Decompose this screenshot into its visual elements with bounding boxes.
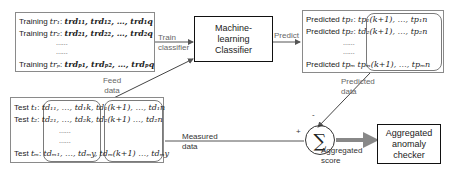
test-data-box: Test t₁: td₁₁, …, td₁k, td₁(k+1), …, td₁… <box>10 97 164 163</box>
predicted-row-1: Predicted tp₁: tp₁(k+1), …, tp₁n <box>306 15 427 25</box>
test-row-1: Test t₁: td₁₁, …, td₁k, td₁(k+1), …, td₁… <box>14 103 165 113</box>
predicted-data-box: Predicted tp₁: tp₁(k+1), …, tp₁n Predict… <box>302 10 444 73</box>
ellipsis: ...... <box>56 39 68 46</box>
anomaly-checker-box: Aggregated anomaly checker <box>377 124 441 164</box>
ellipsis: ...... <box>56 48 68 55</box>
plus-sign: + <box>296 127 301 137</box>
ellipsis: ...... <box>59 127 71 134</box>
predicted-row-2: Predicted tp₂: td₂(k+1), …, tp₂n <box>306 27 427 37</box>
predicted-data-label: Predicted data <box>341 77 377 97</box>
aggregated-score-label: Aggregated score <box>321 146 365 166</box>
measured-data-label: Measured data <box>182 132 222 152</box>
test-row-m: Test tₘ: tdₘ₁, …, tdₘy, tdₘ(k+1) …, tdₘy <box>14 149 169 159</box>
ellipsis: ...... <box>343 39 355 46</box>
ml-classifier-box: Machine-learning Classifier <box>194 16 273 62</box>
training-row-2: Training tr₂: trd₂₁, trd₂₂, …, trd₂q <box>19 28 153 39</box>
test-row-2: Test t₂: td₂₁, …, td₂k, td₂(k+1) …, td₂n <box>14 115 163 125</box>
train-classifier-label: Train classifier <box>158 33 192 53</box>
ellipsis: ...... <box>59 137 71 144</box>
ellipsis: ...... <box>343 48 355 55</box>
training-data-box: Training tr₁: trd₁₁, trd₁₂, …, trd₁q Tra… <box>15 12 155 72</box>
predict-label: Predict <box>274 31 299 41</box>
minus-sign: - <box>312 110 315 120</box>
predicted-row-m: Predicted tpₘ tpₘ(k+1), …, tpₘn <box>306 60 430 70</box>
training-row-p: Training trₚ: trdₚ₁, trdₚ₂, …, trdₚq <box>19 59 154 70</box>
feed-data-label: Feed data <box>100 76 124 96</box>
training-row-1: Training tr₁: trd₁₁, trd₁₂, …, trd₁q <box>19 16 153 27</box>
